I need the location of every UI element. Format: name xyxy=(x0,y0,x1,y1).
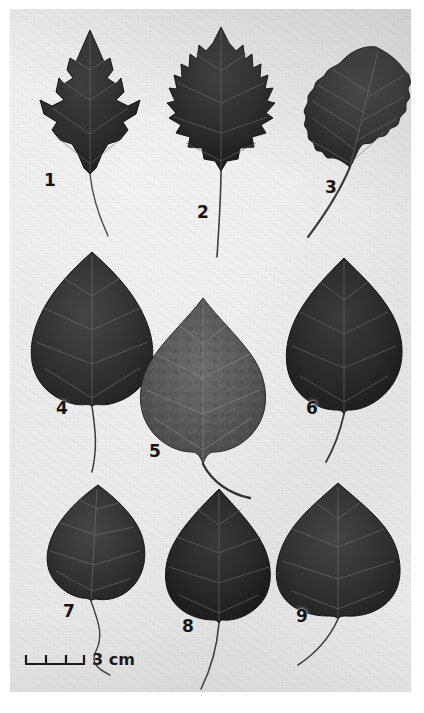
leaf-label-3: 3 xyxy=(325,179,337,196)
leaf-label-7: 7 xyxy=(63,603,75,620)
scale-bar: 3 cm xyxy=(24,652,135,666)
leaf-specimen-2 xyxy=(148,21,298,271)
leaf-label-8: 8 xyxy=(182,618,194,635)
leaf-specimen-plate: 1 xyxy=(0,0,424,713)
leaf-specimen-9 xyxy=(272,477,411,687)
leaf-specimen-1 xyxy=(28,22,158,252)
leaf-label-6: 6 xyxy=(306,400,318,417)
leaf-specimen-8 xyxy=(155,483,290,692)
leaf-specimen-7 xyxy=(40,479,160,679)
leaf-8-blade xyxy=(166,489,271,623)
leaf-2-petiole xyxy=(217,171,221,257)
leaf-1-petiole xyxy=(90,174,108,236)
leaf-6-petiole xyxy=(326,414,344,462)
leaf-label-1: 1 xyxy=(44,172,56,189)
leaf-label-9: 9 xyxy=(296,608,308,625)
leaf-8-petiole xyxy=(201,623,219,689)
scale-bar-ruler xyxy=(24,652,86,666)
leaf-6-drawing xyxy=(282,252,411,477)
leaf-9-drawing xyxy=(272,477,411,687)
leaf-label-5: 5 xyxy=(149,443,161,460)
leaf-specimen-6 xyxy=(282,252,411,477)
leaf-label-4: 4 xyxy=(56,400,68,417)
leaf-8-drawing xyxy=(155,483,290,692)
leaf-3-blade xyxy=(304,47,410,167)
leaf-7-drawing xyxy=(40,479,160,679)
scale-bar-label: 3 cm xyxy=(92,653,135,667)
leaf-specimen-3 xyxy=(292,41,411,261)
leaf-3-drawing xyxy=(292,41,411,261)
leaf-label-2: 2 xyxy=(197,204,209,221)
photograph-area: 1 xyxy=(10,9,411,692)
leaf-2-drawing xyxy=(148,21,298,271)
leaf-1-drawing xyxy=(28,22,158,252)
leaf-4-petiole xyxy=(92,406,95,472)
